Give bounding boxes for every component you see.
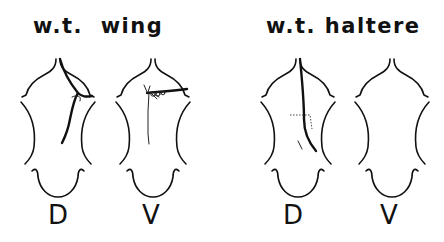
haltere-ventral-disc [355, 59, 429, 197]
haltere-dorsal-disc [261, 59, 335, 197]
wing-dorsal-disc [21, 59, 95, 197]
wing-dorsal-label: D [48, 200, 68, 230]
haltere-ventral-label: V [380, 200, 398, 230]
wing-ventral-disc [116, 59, 190, 197]
haltere-dorsal-label: D [283, 200, 303, 230]
wing-ventral-label: V [142, 200, 160, 230]
